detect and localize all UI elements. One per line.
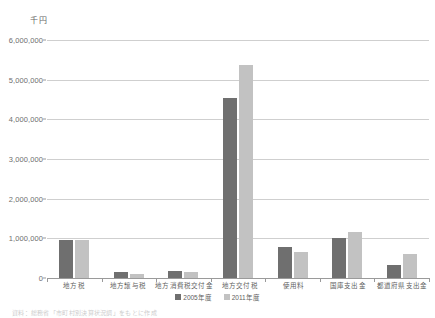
bar (59, 240, 73, 278)
category-label: 地方譲与税 (101, 280, 155, 290)
bar (168, 271, 182, 278)
y-axis-tick-label: 5,000,000 (9, 75, 43, 84)
bars-layer (47, 40, 429, 278)
y-axis-tick-label: 3,000,000 (9, 155, 43, 164)
category-label: 地方消費税交付金 (155, 280, 213, 290)
category-label: 地方税 (47, 280, 101, 290)
bar (130, 274, 144, 278)
plot-area: 6,000,0005,000,0004,000,0003,000,0002,00… (47, 40, 429, 278)
category-label: 都道府県支出金 (375, 280, 429, 290)
bar-group (374, 40, 429, 278)
bar-chart: 千円 6,000,0005,000,0004,000,0003,000,0002… (0, 0, 435, 318)
bar (294, 252, 308, 278)
bar-group (102, 40, 157, 278)
bar (387, 265, 401, 278)
y-axis-unit-label: 千円 (30, 14, 47, 25)
legend-swatch-icon (175, 294, 181, 300)
bar-group (47, 40, 102, 278)
legend-label: 2005年度 (183, 292, 211, 302)
bar (403, 254, 417, 278)
y-axis-tick-label: 6,000,000 (9, 36, 43, 45)
y-axis-tick-mark (43, 40, 46, 41)
y-axis-tick-label: 2,000,000 (9, 194, 43, 203)
bar (75, 240, 89, 278)
y-axis-tick-mark (43, 238, 46, 239)
bar (223, 98, 237, 278)
bar (332, 238, 346, 278)
category-axis-labels: 地方税地方譲与税地方消費税交付金地方交付税使用料国庫支出金都道府県支出金 (47, 280, 429, 290)
legend-label: 2011年度 (232, 292, 260, 302)
bar-group (156, 40, 211, 278)
category-tick-mark (429, 278, 430, 282)
category-label: 使用料 (267, 280, 321, 290)
bar (239, 65, 253, 278)
y-axis-tick-label: 0 (39, 274, 43, 283)
bar (348, 232, 362, 278)
y-axis-tick-mark (43, 79, 46, 80)
y-axis-tick-label: 4,000,000 (9, 115, 43, 124)
chart-footnote: 資料：総務省「市町村別決算状況調」をもとに作成 (12, 308, 422, 317)
chart-legend: 2005年度2011年度 (0, 292, 435, 302)
y-axis-tick-mark (43, 278, 46, 279)
bar (114, 272, 128, 278)
bar-group (265, 40, 320, 278)
y-axis-tick-mark (43, 159, 46, 160)
y-axis-tick-mark (43, 198, 46, 199)
bar-group (320, 40, 375, 278)
legend-item[interactable]: 2011年度 (224, 292, 260, 302)
category-label: 地方交付税 (213, 280, 267, 290)
y-axis-tick-label: 1,000,000 (9, 234, 43, 243)
bar-group (211, 40, 266, 278)
axis-zero-line (47, 278, 429, 279)
legend-item[interactable]: 2005年度 (175, 292, 211, 302)
bar (278, 247, 292, 278)
y-axis-tick-mark (43, 119, 46, 120)
category-label: 国庫支出金 (321, 280, 375, 290)
bar (184, 272, 198, 278)
legend-swatch-icon (224, 294, 230, 300)
